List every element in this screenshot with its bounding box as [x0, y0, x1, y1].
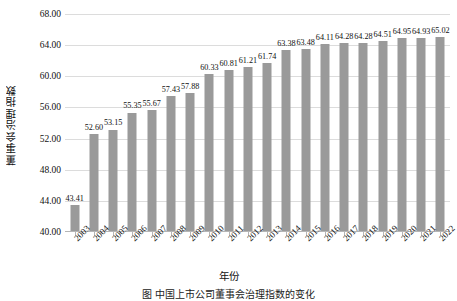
bar-group: 57.43 [161, 14, 180, 232]
bar[interactable] [301, 49, 310, 232]
y-axis-tick-label: 40.00 [40, 227, 61, 237]
bar-value-label: 52.60 [85, 124, 103, 132]
plot-area: 43.4152.6053.1555.3555.6757.4357.8860.33… [65, 14, 450, 232]
y-axis-title-text: 董事会治理指数 [4, 84, 19, 165]
bar[interactable] [109, 130, 118, 232]
bar[interactable] [166, 96, 175, 232]
bar-value-label: 53.15 [104, 119, 122, 127]
bar-group: 60.33 [200, 14, 219, 232]
bar-series: 43.4152.6053.1555.3555.6757.4357.8860.33… [65, 14, 450, 232]
bar-group: 64.11 [315, 14, 334, 232]
figure-caption: 图 中国上市公司董事会治理指数的变化 [0, 286, 457, 301]
y-axis-tick-label: 44.00 [40, 196, 61, 206]
bar-group: 61.21 [238, 14, 257, 232]
y-axis-tick-label: 52.00 [40, 134, 61, 144]
bar-group: 57.88 [181, 14, 200, 232]
y-axis-tick-label: 56.00 [40, 102, 61, 112]
bar-value-label: 64.93 [412, 28, 430, 36]
bar-value-label: 57.43 [162, 86, 180, 94]
bar-group: 60.81 [219, 14, 238, 232]
bar-value-label: 64.28 [354, 33, 372, 41]
bar[interactable] [397, 38, 406, 232]
bar-value-label: 60.81 [219, 60, 237, 68]
bar-value-label: 64.28 [335, 33, 353, 41]
bar-value-label: 61.74 [258, 53, 276, 61]
y-axis-tick-label: 68.00 [40, 9, 61, 19]
bar-value-label: 64.51 [373, 31, 391, 39]
y-axis-tick-label: 60.00 [40, 71, 61, 81]
bar-group: 64.28 [335, 14, 354, 232]
bar[interactable] [186, 93, 195, 232]
bar[interactable] [243, 67, 252, 232]
bar-value-label: 55.67 [142, 100, 160, 108]
bar[interactable] [320, 44, 329, 232]
y-axis-tick-label: 64.00 [40, 40, 61, 50]
bar[interactable] [128, 113, 137, 233]
x-axis-tick-labels: 2003200420052006200720082009201020112012… [65, 236, 450, 270]
y-axis-title: 董事会治理指数 [0, 0, 22, 248]
bar[interactable] [205, 74, 214, 232]
bar-group: 55.35 [123, 14, 142, 232]
bar[interactable] [340, 43, 349, 232]
bar[interactable] [263, 63, 272, 232]
bar-group: 64.95 [392, 14, 411, 232]
bar-group: 64.93 [412, 14, 431, 232]
bar-group: 63.38 [277, 14, 296, 232]
bar[interactable] [282, 50, 291, 232]
bar[interactable] [378, 41, 387, 232]
bar-value-label: 63.48 [296, 39, 314, 47]
bar[interactable] [224, 70, 233, 232]
bar-value-label: 61.21 [239, 57, 257, 65]
bar[interactable] [147, 110, 156, 232]
bar-value-label: 65.02 [431, 27, 449, 35]
bar-value-label: 60.33 [200, 64, 218, 72]
bar-value-label: 64.11 [316, 34, 334, 42]
bar[interactable] [436, 37, 445, 232]
bar-group: 61.74 [258, 14, 277, 232]
bar-group: 52.60 [84, 14, 103, 232]
bar[interactable] [89, 134, 98, 232]
bar-value-label: 43.41 [65, 195, 83, 203]
bar-group: 64.28 [354, 14, 373, 232]
bar-value-label: 55.35 [123, 102, 141, 110]
bar-group: 63.48 [296, 14, 315, 232]
y-axis-tick-labels: 40.0044.0048.0052.0056.0060.0064.0068.00 [22, 0, 64, 248]
bar-group: 64.51 [373, 14, 392, 232]
bar-value-label: 64.95 [393, 28, 411, 36]
bar-group: 53.15 [104, 14, 123, 232]
bar-group: 55.67 [142, 14, 161, 232]
bar-value-label: 57.88 [181, 83, 199, 91]
y-axis-tick-label: 48.00 [40, 165, 61, 175]
bar[interactable] [359, 43, 368, 232]
x-axis-title: 年份 [0, 268, 457, 283]
bar[interactable] [417, 38, 426, 232]
bar-group: 65.02 [431, 14, 450, 232]
bar[interactable] [70, 205, 79, 232]
bar-group: 43.41 [65, 14, 84, 232]
bar-value-label: 63.38 [277, 40, 295, 48]
